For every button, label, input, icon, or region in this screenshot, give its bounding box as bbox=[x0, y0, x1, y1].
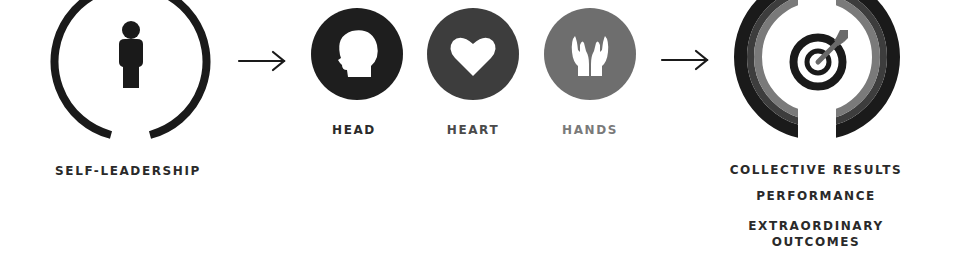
heart-label: HEART bbox=[423, 124, 523, 136]
head-circle bbox=[311, 8, 403, 100]
arrow-right-icon bbox=[239, 52, 284, 70]
person-icon bbox=[119, 21, 143, 88]
hands-circle bbox=[544, 8, 636, 100]
heart-circle bbox=[427, 8, 519, 100]
extraordinary-label: EXTRAORDINARY bbox=[706, 220, 926, 232]
arrow-right-icon bbox=[662, 51, 707, 69]
self-leadership-label: SELF-LEADERSHIP bbox=[28, 165, 228, 177]
collective-results-label: COLLECTIVE RESULTS bbox=[706, 164, 926, 176]
results-labels: COLLECTIVE RESULTS PERFORMANCE EXTRAORDI… bbox=[706, 164, 926, 248]
performance-label: PERFORMANCE bbox=[706, 190, 926, 202]
target-icon bbox=[794, 30, 849, 87]
head-label: HEAD bbox=[304, 124, 404, 136]
outcomes-label: OUTCOMES bbox=[706, 236, 926, 248]
results-rings bbox=[741, 0, 894, 134]
diagram: SELF-LEADERSHIP HEAD HEART HANDS COLLECT… bbox=[0, 0, 954, 260]
hands-label: HANDS bbox=[540, 124, 640, 136]
